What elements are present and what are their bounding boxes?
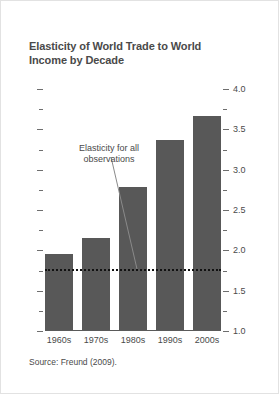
x-label-2000s: 2000s <box>193 335 221 345</box>
y-tick-minor-right <box>223 190 227 191</box>
y-tick-label: 2.5 <box>233 205 246 215</box>
y-tick-minor-left <box>39 150 43 151</box>
y-tick-major-right <box>223 250 229 251</box>
source-note: Source: Freund (2009). <box>29 357 117 367</box>
y-tick-minor-right <box>223 271 227 272</box>
y-tick-major-left <box>37 129 43 130</box>
y-tick-major-left <box>37 250 43 251</box>
y-tick-label: 3.0 <box>233 165 246 175</box>
y-tick-label: 4.0 <box>233 84 246 94</box>
y-tick-minor-left <box>39 230 43 231</box>
y-tick-minor-right <box>223 230 227 231</box>
bar-1960s <box>45 254 73 331</box>
bar-1980s <box>119 187 147 331</box>
x-axis-labels: 1960s1970s1980s1990s2000s <box>45 335 221 345</box>
y-tick-major-right <box>223 129 229 130</box>
y-tick-label: 1.0 <box>233 326 246 336</box>
y-tick-major-right <box>223 291 229 292</box>
y-tick-minor-left <box>39 190 43 191</box>
y-tick-major-left <box>37 170 43 171</box>
y-tick-minor-right <box>223 311 227 312</box>
y-tick-major-left <box>37 331 43 332</box>
y-tick-minor-right <box>223 109 227 110</box>
x-label-1990s: 1990s <box>156 335 184 345</box>
y-tick-minor-left <box>39 271 43 272</box>
y-tick-major-left <box>37 291 43 292</box>
y-tick-major-left <box>37 210 43 211</box>
y-tick-major-right <box>223 89 229 90</box>
bar-1970s <box>82 238 110 331</box>
annotation-line-2: observations <box>57 154 161 165</box>
plot-area: 1.01.52.02.53.03.54.0 <box>45 89 221 331</box>
y-tick-label: 2.0 <box>233 245 246 255</box>
annotation-label: Elasticity for all observations <box>57 143 161 165</box>
x-label-1960s: 1960s <box>45 335 73 345</box>
chart-figure: Elasticity of World Trade to World Incom… <box>0 0 279 394</box>
y-tick-major-right <box>223 210 229 211</box>
x-label-1970s: 1970s <box>82 335 110 345</box>
y-tick-label: 3.5 <box>233 124 246 134</box>
y-tick-minor-left <box>39 109 43 110</box>
bar-series <box>45 89 221 331</box>
y-tick-minor-right <box>223 150 227 151</box>
x-label-1980s: 1980s <box>119 335 147 345</box>
bar-1990s <box>156 140 184 331</box>
reference-line <box>45 269 221 271</box>
y-tick-major-right <box>223 331 229 332</box>
y-tick-label: 1.5 <box>233 286 246 296</box>
chart-title: Elasticity of World Trade to World Incom… <box>29 39 241 67</box>
x-axis-line <box>45 330 221 331</box>
annotation-line-1: Elasticity for all <box>57 143 161 154</box>
y-tick-major-left <box>37 89 43 90</box>
y-tick-minor-left <box>39 311 43 312</box>
y-tick-major-right <box>223 170 229 171</box>
bar-2000s <box>193 116 221 331</box>
